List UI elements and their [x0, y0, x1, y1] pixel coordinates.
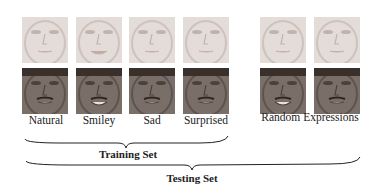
training-set-label: Training Set [88, 148, 168, 160]
testing-set-label: Testing Set [150, 172, 234, 184]
braces [0, 0, 379, 190]
